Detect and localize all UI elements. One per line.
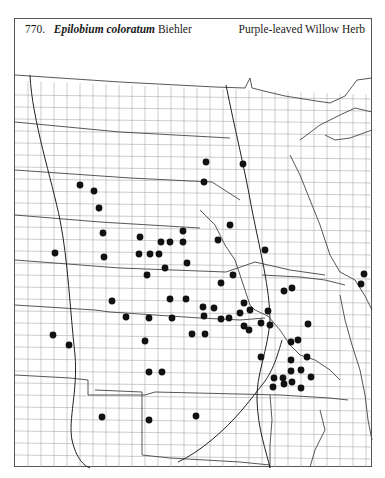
occurrence-dot [298, 367, 305, 374]
occurrence-dot [246, 327, 253, 334]
occurrence-dot [146, 369, 153, 376]
occurrence-dot [240, 161, 247, 168]
occurrence-dot [361, 271, 368, 278]
occurrence-dot [262, 247, 269, 254]
occurrence-dot [271, 375, 278, 382]
occurrence-dot [99, 414, 106, 421]
occurrence-dot [201, 179, 208, 186]
occurrence-dot [180, 239, 187, 246]
occurrence-dot [193, 413, 200, 420]
occurrence-dot [169, 315, 176, 322]
occurrence-dot [281, 381, 288, 388]
occurrence-dot [137, 234, 144, 241]
occurrence-dot [270, 384, 277, 391]
occurrence-dot [241, 300, 248, 307]
occurrence-dot [295, 337, 302, 344]
occurrence-dot [358, 281, 365, 288]
occurrence-dot [298, 385, 305, 392]
occurrence-dot [308, 374, 315, 381]
occurrence-dot [167, 296, 174, 303]
occurrence-dot [288, 339, 295, 346]
occurrence-dot [159, 369, 166, 376]
occurrence-dot [142, 338, 149, 345]
occurrence-dot [100, 230, 107, 237]
occurrence-dot [156, 251, 163, 258]
occurrence-dot [230, 272, 237, 279]
occurrence-dot [146, 315, 153, 322]
occurrence-dot [136, 251, 143, 258]
occurrence-dot [144, 272, 151, 279]
occurrence-dot [162, 265, 169, 272]
occurrence-dot [247, 307, 254, 314]
occurrence-dot [180, 228, 187, 235]
occurrence-dot [227, 222, 234, 229]
occurrence-dot [50, 332, 57, 339]
occurrence-dot [167, 239, 174, 246]
occurrence-dot [123, 314, 130, 321]
occurrence-dot [96, 205, 103, 212]
occurrence-dot [304, 354, 311, 361]
occurrence-dot [218, 316, 225, 323]
occurrence-dot [183, 296, 190, 303]
occurrence-dot [288, 357, 295, 364]
occurrence-dot [201, 313, 208, 320]
occurrence-dot [77, 182, 84, 189]
distribution-map [0, 0, 385, 478]
occurrence-dot [258, 354, 265, 361]
occurrence-dot [265, 308, 272, 315]
occurrence-dot [215, 237, 222, 244]
occurrence-dot [202, 331, 209, 338]
occurrence-dot [289, 379, 296, 386]
occurrence-dot [289, 285, 296, 292]
occurrence-dot [237, 310, 244, 317]
occurrence-dot [258, 320, 265, 327]
occurrence-dot [189, 331, 196, 338]
occurrence-dot [211, 305, 218, 312]
occurrence-dot [305, 321, 312, 328]
occurrence-dot [203, 159, 210, 166]
occurrence-dot [158, 239, 165, 246]
occurrence-dot [280, 375, 287, 382]
occurrence-dot [52, 250, 59, 257]
occurrence-dot [146, 417, 153, 424]
occurrence-dot [281, 288, 288, 295]
occurrence-dot [267, 322, 274, 329]
occurrence-dot [218, 280, 225, 287]
occurrence-dot [109, 298, 116, 305]
occurrence-dot [66, 342, 73, 349]
occurrence-dot [184, 260, 191, 267]
occurrence-dot [288, 368, 295, 375]
occurrence-dot [200, 304, 207, 311]
occurrence-dot [147, 251, 154, 258]
occurrence-dot [101, 254, 108, 261]
occurrence-dot [91, 188, 98, 195]
occurrence-dot [226, 315, 233, 322]
